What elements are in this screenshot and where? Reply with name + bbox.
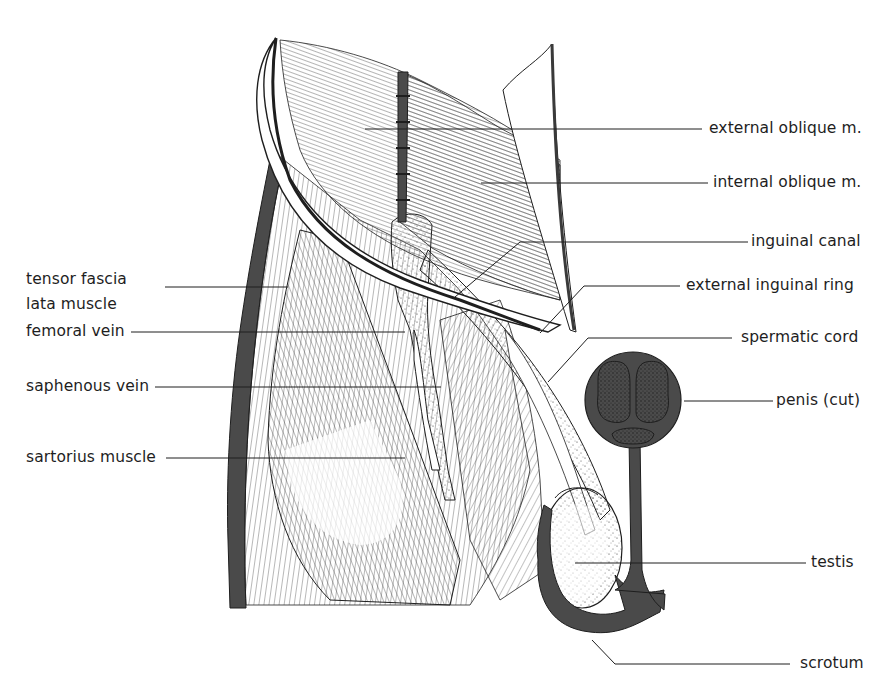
corpus-cavernosum-right (636, 361, 668, 422)
label-testis: testis (811, 555, 854, 571)
penis-stalk (615, 438, 665, 610)
corpus-spongiosum (612, 428, 654, 444)
label-spermatic-cord: spermatic cord (741, 330, 858, 346)
label-internal-oblique: internal oblique m. (713, 175, 861, 191)
label-inguinal-canal: inguinal canal (751, 234, 861, 250)
anatomy-diagram: tensor fascia lata muscle femoral vein s… (0, 0, 891, 691)
label-external-oblique: external oblique m. (709, 121, 862, 137)
corpus-cavernosum-left (598, 361, 630, 422)
label-tensor-fascia-line2: lata muscle (26, 297, 117, 313)
leader-scrotum (592, 640, 790, 664)
label-saphenous-vein: saphenous vein (26, 379, 149, 395)
label-penis-cut: penis (cut) (776, 393, 860, 409)
label-tensor-fascia-line1: tensor fascia (26, 272, 127, 288)
label-external-inguinal-ring: external inguinal ring (686, 278, 854, 294)
label-sartorius-muscle: sartorius muscle (26, 450, 156, 466)
label-scrotum: scrotum (800, 656, 864, 672)
label-femoral-vein: femoral vein (26, 324, 125, 340)
